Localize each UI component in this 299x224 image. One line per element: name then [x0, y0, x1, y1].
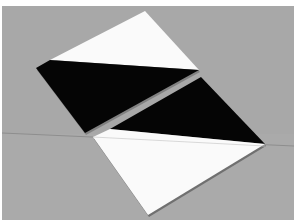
- photo-scene: [0, 0, 299, 224]
